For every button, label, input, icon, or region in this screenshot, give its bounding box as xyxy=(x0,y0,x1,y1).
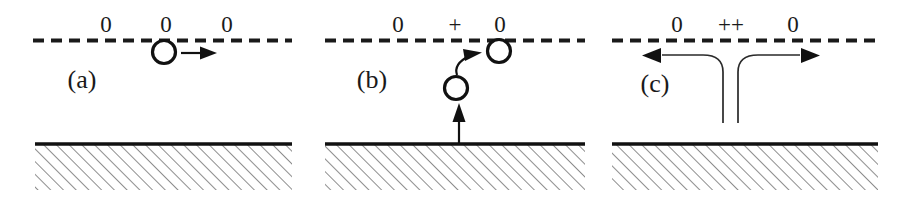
substrate-b xyxy=(325,144,585,190)
charge-label-c-center: ++ xyxy=(718,12,744,37)
arrow-right-a xyxy=(181,47,217,60)
charge-label-a-left: 0 xyxy=(100,12,112,37)
particle-circle-a xyxy=(153,41,176,64)
charge-label-b-right: 0 xyxy=(494,12,506,37)
substrate-a xyxy=(35,144,292,190)
charge-label-a-right: 0 xyxy=(221,12,233,37)
substrate-hatch-a xyxy=(35,145,292,190)
panel-label-b: (b) xyxy=(357,65,387,94)
charge-label-b-left: 0 xyxy=(392,12,404,37)
charge-label-a-center: 0 xyxy=(160,12,172,37)
panel-label-a: (a) xyxy=(68,65,97,94)
substrate-hatch-c xyxy=(612,145,878,190)
substrate-c xyxy=(612,144,878,190)
arrow-curved-b xyxy=(456,49,482,75)
particle-circle-b-interface xyxy=(488,40,511,63)
panel-label-c: (c) xyxy=(641,69,670,98)
charge-label-c-left: 0 xyxy=(671,12,683,37)
charge-label-b-center: + xyxy=(449,12,462,37)
particle-circle-b-rising xyxy=(445,77,468,100)
figure-container: 0 0 0 (a) 0 + 0 xyxy=(0,0,897,206)
panel-b: 0 + 0 (b) xyxy=(325,12,585,190)
panel-a: 0 0 0 (a) xyxy=(33,12,292,190)
charge-label-c-right: 0 xyxy=(787,12,799,37)
arrow-up-b xyxy=(453,103,466,144)
substrate-hatch-b xyxy=(325,145,585,190)
branch-arrow-right-c xyxy=(738,48,820,123)
three-panel-diagram: 0 0 0 (a) 0 + 0 xyxy=(0,0,897,206)
panel-c: 0 ++ 0 (c) xyxy=(612,12,878,190)
